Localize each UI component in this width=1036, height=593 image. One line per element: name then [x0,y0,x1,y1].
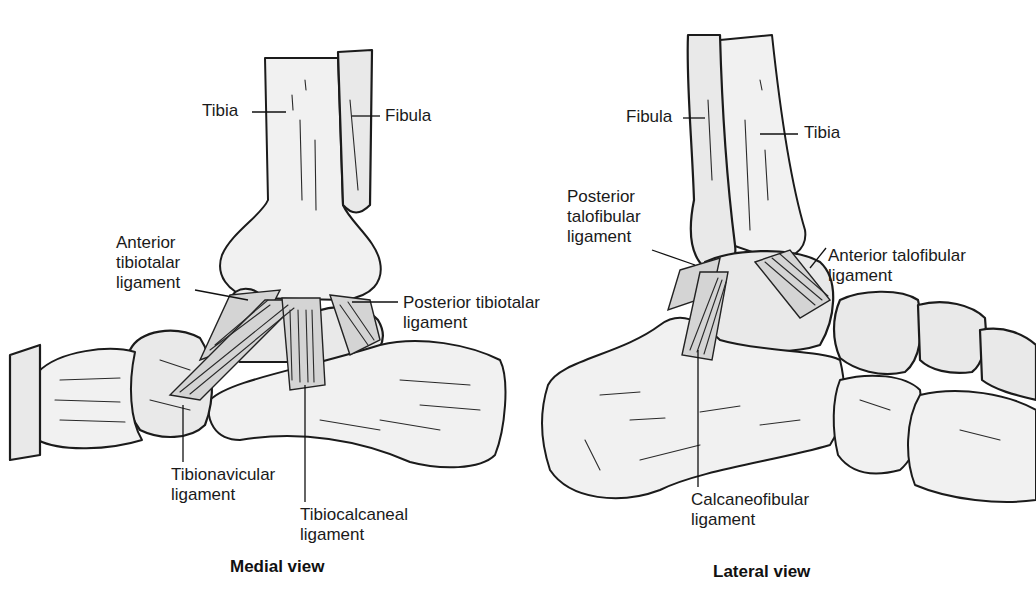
label-posterior-talofibular-ligament: Posterior talofibular ligament [567,187,641,247]
medial-metatarsal-bone [10,345,40,460]
medial-cuneiform-bone [32,349,142,448]
label-lateral-tibia: Tibia [804,123,840,143]
caption-medial-view: Medial view [230,557,324,577]
caption-lateral-view: Lateral view [713,562,810,582]
label-tibiocalcaneal-ligament: Tibiocalcaneal ligament [300,505,408,545]
medial-fibula-bone [338,50,372,213]
label-anterior-tibiotalar-ligament: Anterior tibiotalar ligament [116,233,180,293]
label-posterior-tibiotalar-ligament: Posterior tibiotalar ligament [403,293,540,333]
label-lateral-fibula: Fibula [626,107,672,127]
lateral-cuneiform-bone [918,302,986,373]
label-calcaneofibular-ligament: Calcaneofibular ligament [691,490,809,530]
label-anterior-talofibular-ligament: Anterior talofibular ligament [828,246,966,286]
lateral-metatarsal-bone [908,391,1036,502]
lateral-navicular-bone [834,292,921,374]
label-medial-fibula: Fibula [385,106,431,126]
tibiocalcaneal-ligament [282,298,325,390]
label-tibionavicular-ligament: Tibionavicular ligament [171,465,275,505]
label-medial-tibia: Tibia [202,101,238,121]
lateral-metatarsal-bone-2 [980,329,1036,400]
